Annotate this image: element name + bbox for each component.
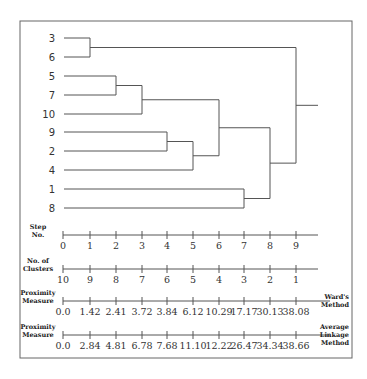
- tick-label: 10.29: [205, 306, 232, 317]
- leaf-labels: 36571092418: [42, 33, 55, 214]
- tick-label: 3.84: [156, 306, 177, 317]
- tick-label: 30.13: [256, 306, 283, 317]
- tick-label: 38.08: [282, 306, 309, 317]
- tick-label: 6: [164, 274, 170, 285]
- tick-label: 3.72: [131, 306, 152, 317]
- tick-label: 6.12: [182, 306, 203, 317]
- tick-label: 8: [267, 240, 273, 251]
- method-label: Average: [319, 323, 349, 331]
- tick-label: 5: [190, 274, 196, 285]
- leaf-label-7: 7: [49, 90, 55, 101]
- method-label: Linkage: [320, 331, 349, 339]
- axis-1: 10987654321No. ofClusters: [23, 257, 318, 285]
- axis-title: Proximity: [20, 289, 55, 297]
- method-label: Method: [321, 301, 349, 309]
- leaf-label-9: 9: [49, 127, 55, 138]
- tick-label: 34.34: [256, 340, 283, 351]
- tick-label: 4: [164, 240, 170, 251]
- tick-label: 0.0: [55, 306, 70, 317]
- dendrogram-tree: [64, 38, 318, 208]
- leaf-label-3: 3: [49, 33, 55, 44]
- leaf-label-5: 5: [49, 71, 55, 82]
- axis-title: Step: [30, 223, 47, 231]
- tick-label: 1: [293, 274, 299, 285]
- axis-title: Proximity: [20, 323, 55, 331]
- tick-label: 12.22: [205, 340, 232, 351]
- tick-label: 7: [139, 274, 145, 285]
- tick-label: 17.17: [230, 306, 257, 317]
- tick-label: 1: [87, 240, 93, 251]
- tick-label: 5: [190, 240, 196, 251]
- axis-3: 0.02.844.816.787.6811.1012.2226.4734.343…: [20, 323, 349, 351]
- method-label: Ward's: [323, 293, 349, 301]
- method-label: Method: [321, 339, 349, 347]
- tick-label: 8: [113, 274, 119, 285]
- leaf-label-6: 6: [49, 52, 55, 63]
- tick-label: 9: [87, 274, 93, 285]
- tick-label: 7.68: [156, 340, 177, 351]
- tick-label: 4: [216, 274, 222, 285]
- tick-label: 38.66: [282, 340, 309, 351]
- axis-2: 0.01.422.413.723.846.1210.2917.1730.1338…: [20, 289, 349, 317]
- axis-scales: 0123456789StepNo.10987654321No. ofCluste…: [20, 223, 349, 351]
- tick-label: 11.10: [179, 340, 206, 351]
- tick-label: 2: [267, 274, 273, 285]
- dendrogram-figure: 36571092418 0123456789StepNo.10987654321…: [0, 0, 367, 379]
- leaf-label-8: 8: [49, 203, 55, 214]
- tick-label: 0.0: [55, 340, 70, 351]
- tick-label: 6: [216, 240, 222, 251]
- axis-0: 0123456789StepNo.: [30, 223, 318, 251]
- tick-label: 0: [60, 240, 66, 251]
- leaf-label-10: 10: [42, 109, 55, 120]
- tick-label: 10: [57, 274, 69, 285]
- leaf-label-4: 4: [49, 165, 55, 176]
- tick-label: 9: [293, 240, 299, 251]
- tick-label: 7: [241, 240, 247, 251]
- axis-title: Measure: [22, 331, 54, 339]
- axis-title: Measure: [22, 297, 54, 305]
- tick-label: 2.84: [79, 340, 100, 351]
- tick-label: 6.78: [131, 340, 152, 351]
- tick-label: 3: [139, 240, 145, 251]
- leaf-label-1: 1: [49, 184, 55, 195]
- tick-label: 2.41: [105, 306, 126, 317]
- tick-label: 2: [113, 240, 119, 251]
- axis-title: No. of: [27, 257, 50, 265]
- tick-label: 3: [241, 274, 247, 285]
- tick-label: 26.47: [230, 340, 257, 351]
- axis-title: No.: [32, 231, 44, 239]
- leaf-label-2: 2: [49, 146, 55, 157]
- tick-label: 1.42: [79, 306, 100, 317]
- axis-title: Clusters: [23, 265, 54, 273]
- tick-label: 4.81: [105, 340, 126, 351]
